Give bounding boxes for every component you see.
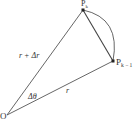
point-pk-marker [82, 9, 85, 12]
short-side-label: r [66, 86, 70, 95]
polar-arc-diagram: O Pk Pk − 1 r + Δr r Δθ [0, 0, 137, 135]
origin-label: O [0, 111, 7, 121]
radius-r-plus-dr [7, 10, 83, 115]
pk1-label: Pk − 1 [116, 57, 133, 68]
point-pk1-marker [112, 60, 115, 63]
angle-label: Δθ [27, 92, 37, 101]
radius-r [7, 61, 113, 115]
long-side-label: r + Δr [19, 51, 40, 60]
pk-label: Pk [81, 0, 88, 9]
chord [83, 10, 113, 61]
